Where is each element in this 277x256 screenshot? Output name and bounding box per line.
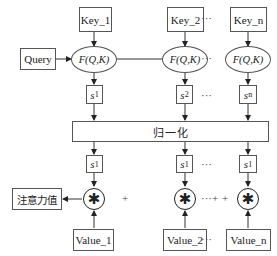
ellipsis: ··· (201, 89, 212, 101)
key-box-2: Key_2 (167, 7, 204, 32)
value-label: Value_1 (75, 234, 111, 246)
weight-box-1: s1 (86, 155, 103, 173)
score-fn-label: F(Q,K) (170, 54, 201, 65)
score-function-1: F(Q,K) (71, 46, 117, 73)
query-box: Query (20, 48, 56, 70)
ellipsis: ··· (201, 12, 212, 24)
multiply-icon: ✱ (174, 188, 196, 210)
value-label: Value_2 (167, 234, 203, 246)
score-sub: 1 (95, 90, 99, 99)
plus-sign: + (122, 192, 128, 204)
ellipsis: ··· (201, 192, 212, 204)
attention-value-box: 注意力值 (12, 188, 62, 210)
score-box-n: sn (239, 85, 257, 104)
multiply-symbol: ✱ (242, 192, 255, 207)
score-fn-label: F(Q,K) (79, 54, 110, 65)
value-label: Value_n (230, 234, 266, 246)
weight-sub: 1 (185, 160, 189, 169)
key-box-n: Key_n (230, 7, 267, 32)
weight-sub: 1 (95, 160, 99, 169)
score-sub: n (248, 90, 252, 99)
multiply-symbol: ✱ (88, 192, 101, 207)
score-fn-label: F(Q,K) (233, 54, 264, 65)
score-box-1: s1 (86, 85, 103, 104)
multiply-symbol: ✱ (179, 192, 192, 207)
key-label: Key_1 (81, 14, 110, 26)
weight-box-2: s1 (176, 155, 193, 173)
value-box-n: Value_n (226, 229, 271, 251)
normalize-label: 归一化 (153, 124, 189, 140)
multiply-icon: ✱ (237, 188, 259, 210)
ellipsis: ··· (201, 158, 212, 170)
value-box-1: Value_1 (73, 229, 114, 251)
key-box-1: Key_1 (79, 7, 112, 32)
query-label: Query (24, 53, 52, 65)
key-label: Key_n (234, 14, 263, 26)
score-box-2: s2 (176, 85, 193, 104)
weight-sub: 1 (248, 160, 252, 169)
score-function-n: F(Q,K) (225, 46, 271, 73)
multiply-icon: ✱ (83, 188, 105, 210)
key-label: Key_2 (171, 14, 200, 26)
attention-value-label: 注意力值 (17, 192, 57, 207)
ellipsis: ··· (201, 52, 212, 64)
normalization-bar: 归一化 (72, 121, 269, 142)
score-sub: 2 (185, 90, 189, 99)
plus-sign: + (212, 192, 218, 204)
ellipsis: ··· (201, 233, 212, 245)
weight-box-n: s1 (239, 155, 257, 173)
plus-sign: + (222, 192, 228, 204)
